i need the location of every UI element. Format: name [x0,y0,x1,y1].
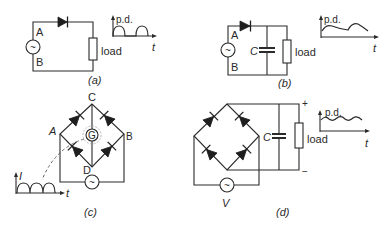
svg-text:~: ~ [224,180,230,191]
terminal-b-label: B [36,56,43,68]
graph-d-ylabel: p.d. [325,107,342,118]
capacitor-label: C [263,131,271,143]
ac-source-icon: ~ [26,40,40,54]
ac-source-icon: ~ [221,43,235,57]
caption-d: (d) [276,206,290,218]
diode-icon [58,17,68,28]
graph-a-xlabel: t [152,41,156,53]
graph-b-xlabel: t [373,42,377,54]
load-label: load [101,45,122,57]
arrow-up-icon [319,15,323,20]
svg-text:G: G [88,130,96,141]
arrow-right-icon [60,191,65,195]
graph-a-ylabel: p.d. [116,14,133,25]
arrow-right-icon [365,129,370,133]
terminal-b-label: B [231,61,238,73]
capacitor-icon [272,134,286,138]
capacitor-label: C [250,45,258,57]
minus-terminal-label: − [302,166,308,177]
load-resistor-icon [283,40,291,63]
graph-c-ylabel: I [19,170,22,182]
load-resistor-icon [89,38,97,60]
graph-b-ylabel: p.d. [324,14,341,25]
caption-a: (a) [88,74,102,86]
diode-icon [240,21,251,32]
bridge-d-wires [194,104,259,170]
caption-c: (c) [84,206,97,218]
caption-b: (b) [278,77,292,89]
graph-c: I t [14,170,70,199]
arrow-up-icon [111,15,115,20]
node-c-label: C [88,91,96,103]
graph-d-xlabel: t [365,137,369,149]
svg-text:~: ~ [30,42,36,53]
arrow-up-icon [318,110,322,115]
node-a-label: A [48,125,56,137]
galvanometer-icon: G [83,126,101,144]
svg-text:~: ~ [89,177,95,188]
circuit-b: ~ A B C load (b) [221,21,316,90]
rectifier-circuits-figure: ~ A B load (a) p.d. t ~ A B [0,0,392,228]
ac-source-icon: ~ [220,178,234,192]
graph-b: p.d. t [319,14,379,54]
node-d-label: D [83,164,91,176]
source-v-label: V [222,197,231,209]
circuit-a: ~ A B load (a) [26,17,122,87]
plus-terminal-label: + [302,98,308,109]
circuit-c: G ~ C A B D (c) [42,91,133,218]
circuit-d: ~ C load + − V (d) [194,98,328,218]
pointer-dashed-line [42,139,84,180]
capacitor-icon [259,48,275,52]
arrow-up-icon [14,172,18,177]
svg-text:~: ~ [225,45,231,56]
arrow-right-icon [152,34,157,38]
arrow-right-icon [374,35,379,39]
ac-source-icon: ~ [85,175,99,189]
graph-c-xlabel: t [66,187,70,199]
load-label: load [295,46,316,58]
terminal-a-label: A [231,29,239,41]
load-resistor-icon [295,123,303,148]
node-b-label: B [126,131,133,142]
load-label: load [307,133,328,145]
terminal-a-label: A [36,26,44,38]
